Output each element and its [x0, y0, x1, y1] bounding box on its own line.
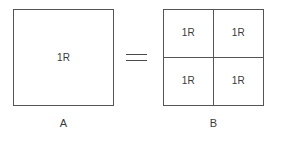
figure-b-quadrant-top-left: 1R: [164, 10, 214, 58]
figure-b-caption: B: [163, 118, 264, 129]
figure-b-quadrant-bottom-left: 1R: [164, 58, 214, 106]
figure-a-cell-label: 1R: [14, 10, 113, 105]
figure-b-cell-label: 1R: [182, 28, 195, 38]
figure-b-cell-label: 1R: [182, 76, 195, 86]
equals-icon: [126, 53, 147, 63]
figure-b-cell-label: 1R: [232, 28, 245, 38]
figure-b-quadrant-bottom-right: 1R: [214, 58, 264, 106]
equals-icon-bar-bottom: [126, 60, 147, 61]
figure-b-quadrant-top-right: 1R: [214, 10, 264, 58]
equals-icon-bar-top: [126, 54, 147, 55]
figure-a-square: 1R: [13, 9, 114, 106]
figure-b-cell-label: 1R: [232, 76, 245, 86]
figure-a-caption: A: [13, 118, 114, 129]
figure-b-square: 1R 1R 1R 1R: [163, 9, 264, 106]
resistance-equivalence-diagram: 1R A 1R 1R 1R 1R B: [0, 0, 281, 145]
